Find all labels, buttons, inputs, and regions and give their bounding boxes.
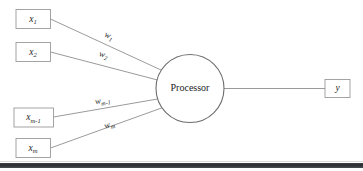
svg-text:wm: wm <box>103 118 117 132</box>
input-node-xm-1[interactable]: xm-1 <box>14 108 54 127</box>
input-xm-subscript: m <box>33 147 38 154</box>
weight-wm-1-subscript: m-1 <box>101 99 111 107</box>
output-node-y[interactable]: y <box>325 80 350 98</box>
input-x1-subscript: 1 <box>33 18 36 25</box>
svg-text:w1: w1 <box>103 29 116 43</box>
weight-label-wm-1-group: wm-1 <box>94 94 111 108</box>
bottom-dark-band <box>0 163 363 168</box>
input-node-x1[interactable]: x1 <box>16 10 51 29</box>
bottom-hairline-divider <box>0 161 363 162</box>
processor-label: Processor <box>171 82 211 93</box>
weight-label-w1-group: w1 <box>103 29 116 43</box>
weight-label-w2-group: w2 <box>98 48 109 61</box>
svg-text:w2: w2 <box>98 48 109 61</box>
weight-wm-subscript: m <box>110 123 117 130</box>
edge-x1-processor <box>51 19 162 70</box>
svg-text:y: y <box>334 83 340 93</box>
input-node-xm[interactable]: xm <box>16 139 51 158</box>
weight-label-wm-group: wm <box>103 118 117 132</box>
processor-node[interactable]: Processor <box>156 55 224 123</box>
input-node-x2[interactable]: x2 <box>16 43 51 62</box>
input-xm-1-subscript: m-1 <box>30 116 40 123</box>
neural-processor-diagram: x1 x2 xm-1 xm Processor <box>0 0 363 171</box>
diagram-canvas: x1 x2 xm-1 xm Processor <box>0 0 363 171</box>
output-y-base: y <box>334 83 340 93</box>
weight-w2-subscript: 2 <box>103 55 107 62</box>
svg-text:wm-1: wm-1 <box>94 94 111 108</box>
